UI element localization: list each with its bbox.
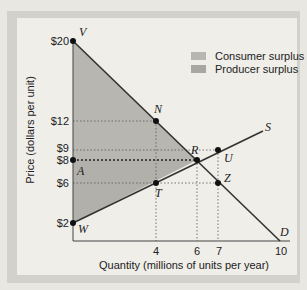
point-label-a: A [76, 164, 85, 178]
legend-label-producer: Producer surplus [215, 63, 299, 75]
point-label-u: U [224, 151, 234, 165]
x-axis-title: Quantity (millions of units per year) [99, 259, 269, 271]
point-label-v: V [79, 25, 88, 39]
point-label-w: W [78, 222, 89, 236]
x-tick-6: 6 [194, 245, 200, 257]
supply-curve-label: S [265, 120, 271, 134]
y-tick-2: $2 [57, 217, 69, 229]
point-label-z: Z [224, 171, 231, 185]
y-axis-title: Price (dollars per unit) [24, 76, 36, 184]
point-label-n: N [153, 102, 163, 116]
legend-swatch-producer [191, 65, 206, 73]
y-tick-12: $12 [51, 115, 69, 127]
point-label-r: R [190, 143, 199, 157]
x-tick-10: 10 [275, 245, 287, 257]
demand-curve-label: D [279, 225, 289, 239]
x-tick-4: 4 [153, 245, 159, 257]
legend-label-consumer: Consumer surplus [215, 50, 305, 62]
legend: Consumer surplus Producer surplus [191, 50, 305, 75]
x-tick-7: 7 [216, 245, 222, 257]
legend-swatch-consumer [191, 52, 206, 60]
y-tick-8: $8 [57, 154, 69, 166]
y-tick-6: $6 [57, 177, 69, 189]
y-tick-9: $9 [57, 142, 69, 154]
y-tick-20: $20 [51, 35, 69, 47]
surplus-chart: V N R U A T Z W S D $20 $12 $9 $8 $6 $2 … [0, 0, 307, 290]
point-label-t: T [155, 186, 163, 200]
